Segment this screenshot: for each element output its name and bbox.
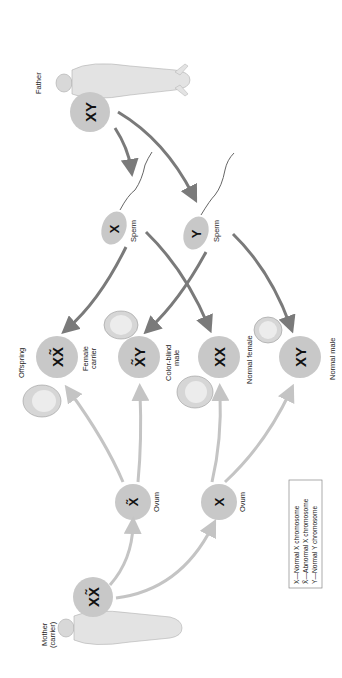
- svg-text:X̃: X̃: [126, 497, 141, 506]
- ovum-2-label: Ovum: [238, 492, 247, 512]
- father-figure: [56, 64, 190, 99]
- arrow-sperm-y-to-offspring-4: [233, 234, 290, 325]
- svg-text:XY: XY: [292, 347, 309, 367]
- father-genotype-circle: XY: [70, 92, 110, 132]
- arrow-mother-to-ovum-1: [110, 525, 133, 585]
- offspring-heading: Offspring: [17, 348, 26, 378]
- sperm-x-label: Sperm: [129, 220, 138, 242]
- legend: X—Normal X chromosome X̃—Abnormal X chro…: [289, 480, 322, 588]
- offspring-face-2: [104, 311, 138, 339]
- mother-label-2: (carrier): [48, 621, 57, 648]
- mother-figure: [58, 611, 182, 644]
- legend-item-normal-x: X—Normal X chromosome: [293, 505, 300, 584]
- arrow-ovum-1-to-offspring-2: [138, 392, 141, 482]
- ovum-1: X̃: [115, 484, 151, 520]
- father-label: Father: [34, 72, 43, 94]
- inheritance-diagram: Father XY X Sperm Y Sperm Offspring: [0, 0, 342, 678]
- offspring-face-1: [23, 385, 61, 417]
- sperm-x: X: [97, 152, 152, 248]
- svg-text:XX̃: XX̃: [49, 347, 66, 367]
- svg-text:XX: XX: [211, 347, 228, 367]
- offspring-1-label-2: carrier: [89, 347, 98, 369]
- arrow-father-to-sperm-x: [115, 128, 131, 168]
- sperm-y: Y: [179, 153, 234, 253]
- mother-genotype-circle: XX̃: [73, 577, 113, 617]
- ovum-1-label: Ovum: [152, 492, 161, 512]
- arrow-ovum-1-to-offspring-1: [70, 392, 123, 482]
- svg-text:Y: Y: [189, 229, 204, 238]
- svg-text:XY: XY: [82, 102, 99, 122]
- sperm-y-label: Sperm: [212, 220, 221, 242]
- offspring-3-label: Normal female: [245, 335, 254, 384]
- arrow-ovum-2-to-offspring-4: [225, 392, 290, 482]
- offspring-4-label: Normal male: [328, 337, 337, 380]
- svg-text:X: X: [107, 224, 122, 233]
- legend-item-abnormal-x: X̃—Abnormal X chromosome: [302, 498, 309, 584]
- offspring-2-circle: X̃Y: [118, 336, 160, 378]
- svg-text:X̃Y: X̃Y: [131, 347, 148, 367]
- ovum-2: X: [201, 484, 237, 520]
- arrow-ovum-2-to-offspring-3: [212, 392, 220, 482]
- offspring-2-label-2: male: [172, 350, 181, 366]
- arrow-sperm-y-to-offspring-2: [150, 252, 206, 328]
- offspring-face-4: [254, 317, 282, 343]
- svg-text:X: X: [212, 497, 227, 506]
- offspring-4-circle: XY: [279, 336, 321, 378]
- offspring-1-circle: XX̃: [36, 336, 78, 378]
- offspring-face-3: [177, 376, 213, 408]
- legend-item-normal-y: Y—Normal Y chromosome: [311, 505, 318, 584]
- arrow-father-to-sperm-y: [118, 112, 193, 195]
- offspring-3-circle: XX: [198, 336, 240, 378]
- svg-text:XX̃: XX̃: [85, 587, 102, 607]
